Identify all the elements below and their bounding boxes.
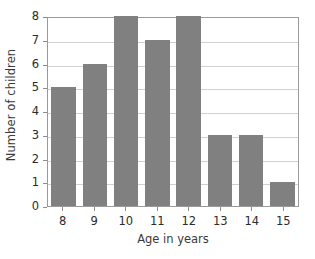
y-axis-tick-label: 8: [32, 11, 39, 23]
bar: [176, 16, 200, 206]
x-axis-tick-mark: [157, 207, 158, 211]
bar: [83, 64, 107, 207]
x-axis-tick-mark: [251, 207, 252, 211]
y-axis-tick-label: 3: [32, 130, 39, 142]
bar-slot: [236, 18, 267, 206]
x-axis-tick-mark: [220, 207, 221, 211]
bar-slot: [111, 18, 142, 206]
x-axis-title: Age in years: [47, 232, 299, 246]
y-axis-tick-label: 2: [32, 154, 39, 166]
x-axis-tick-label: 14: [236, 212, 268, 230]
bar: [114, 16, 138, 206]
bar-slot: [267, 18, 298, 206]
x-axis-tick-label: 12: [173, 212, 205, 230]
bar-slot: [142, 18, 173, 206]
x-axis-tick-label: 15: [268, 212, 300, 230]
bar-series: [48, 18, 298, 206]
bar-slot: [173, 18, 204, 206]
x-axis-tick-mark: [62, 207, 63, 211]
y-axis-title-text: Number of children: [4, 49, 18, 162]
bar-slot: [79, 18, 110, 206]
y-axis-tick-label: 7: [32, 35, 39, 47]
bar: [270, 182, 294, 206]
x-axis-tick-mark: [125, 207, 126, 211]
bar: [145, 40, 169, 206]
x-axis-tick-labels: 89101112131415: [47, 212, 299, 230]
x-axis-tick-label: 8: [47, 212, 79, 230]
bar-chart: Number of children 012345678 89101112131…: [0, 0, 315, 259]
y-axis-tick-label: 5: [32, 83, 39, 95]
bar-slot: [204, 18, 235, 206]
y-axis-title: Number of children: [0, 0, 22, 210]
bar: [239, 135, 263, 206]
y-axis-tick-label: 6: [32, 59, 39, 71]
bar: [208, 135, 232, 206]
x-axis-tick-mark: [188, 207, 189, 211]
y-axis-tick-label: 4: [32, 106, 39, 118]
x-axis-tick-mark: [94, 207, 95, 211]
x-axis-tick-label: 9: [79, 212, 111, 230]
y-axis-tick-label: 0: [32, 201, 39, 213]
x-axis-tick-label: 13: [205, 212, 237, 230]
bar-slot: [48, 18, 79, 206]
x-axis-tick-mark: [283, 207, 284, 211]
x-axis-tick-label: 10: [110, 212, 142, 230]
plot-area: [47, 17, 299, 207]
x-axis-tick-label: 11: [142, 212, 174, 230]
bar: [51, 87, 75, 206]
y-axis-tick-label: 1: [32, 178, 39, 190]
y-axis-tick-labels: 012345678: [22, 11, 42, 206]
